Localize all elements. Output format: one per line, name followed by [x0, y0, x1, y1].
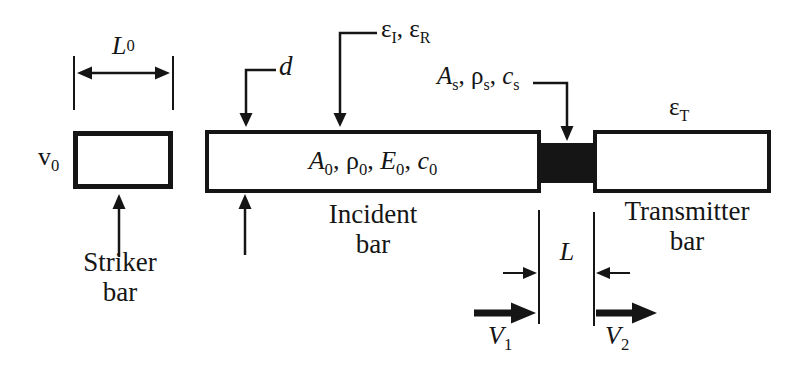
diameter-label: d — [279, 52, 293, 82]
strain-gauge-ir-label: εI, εR — [381, 15, 431, 43]
specimen-length-label: L — [551, 238, 583, 267]
specimen-block — [541, 143, 593, 183]
striker-caption-line1: Striker — [55, 247, 185, 277]
striker-velocity-label: v0 — [38, 143, 59, 172]
incident-bar-caption: Incident bar — [308, 199, 438, 259]
hopkinson-bar-diagram: A0, ρ0, E0, c0 L0 v0 d εI, εR As, ρs, cs… — [0, 0, 809, 365]
striker-length-label: L0 — [74, 32, 173, 61]
transmitter-bar — [593, 130, 771, 193]
striker-bar — [73, 131, 173, 189]
incident-bar-properties-label: A0, ρ0, E0, c0 — [309, 147, 438, 176]
v1-label: V1 — [488, 322, 512, 351]
striker-length-dimension — [74, 56, 173, 110]
incident-bar: A0, ρ0, E0, c0 — [205, 130, 541, 193]
diameter-leader-arrow — [240, 70, 277, 127]
v1-arrow — [474, 303, 536, 324]
transmitter-caption-line1: Transmitter — [608, 196, 766, 226]
strain-gauge-leader-arrow — [334, 33, 378, 127]
specimen-properties-label: As, ρs, cs — [437, 62, 520, 90]
incident-caption-line2: bar — [308, 229, 438, 259]
striker-bar-caption: Striker bar — [55, 247, 185, 307]
strain-gauge-t-label: εT — [669, 93, 689, 121]
striker-caption-line2: bar — [55, 277, 185, 307]
transmitter-bar-caption: Transmitter bar — [608, 196, 766, 256]
transmitter-caption-line2: bar — [608, 226, 766, 256]
incident-pointer-arrow — [239, 194, 252, 255]
incident-caption-line1: Incident — [308, 199, 438, 229]
v2-label: V2 — [605, 322, 629, 351]
